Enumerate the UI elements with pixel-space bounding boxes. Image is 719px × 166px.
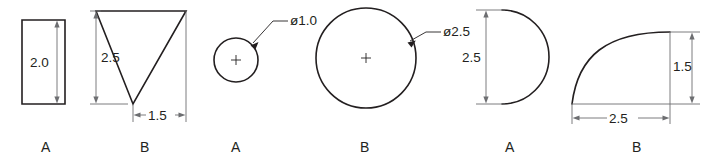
technical-drawing-canvas: 2.0 2.5 1.5: [0, 0, 719, 166]
figure-label-6: B: [632, 139, 641, 155]
figure-5-semicircle-group: 2.5: [462, 10, 549, 104]
arc-width-dimension: 2.5: [573, 111, 670, 126]
semicircle-outline: [502, 10, 549, 104]
figure-1-rectangle-group: 2.0: [22, 20, 65, 104]
figure-4-large-circle-group: ø2.5: [316, 8, 470, 108]
arc-height-value: 1.5: [673, 59, 692, 74]
large-circle-center-mark: [361, 53, 371, 63]
quarter-arc-outline: [572, 32, 670, 104]
semicircle-height-value: 2.5: [462, 50, 481, 65]
figure-3-small-circle-group: ø1.0: [214, 13, 317, 82]
large-circle-diameter-leader: [408, 32, 442, 48]
small-circle-diameter-value: ø1.0: [290, 13, 317, 28]
figure-label-1: A: [41, 139, 51, 155]
arc-width-value: 2.5: [609, 111, 628, 126]
triangle-height-dimension: 2.5: [93, 12, 119, 104]
figure-labels-row: A B A B A B: [41, 139, 641, 155]
triangle-base-dimension: 1.5: [134, 108, 186, 123]
figure-6-quarter-arc-group: 1.5 2.5: [572, 32, 700, 126]
small-circle-diameter-leader: [251, 21, 289, 50]
rectangle-height-value: 2.0: [30, 55, 49, 70]
arc-height-dimension: 1.5: [673, 33, 695, 104]
figure-label-4: B: [360, 139, 369, 155]
figure-label-2: B: [140, 139, 149, 155]
figure-label-5: A: [505, 139, 515, 155]
triangle-base-value: 1.5: [148, 108, 167, 123]
large-circle-diameter-value: ø2.5: [443, 24, 470, 39]
small-circle-center-mark: [231, 55, 241, 65]
figure-2-triangle-group: 2.5 1.5: [90, 11, 186, 123]
figure-label-3: A: [231, 139, 241, 155]
triangle-height-value: 2.5: [101, 50, 120, 65]
rectangle-height-dimension: 2.0: [30, 21, 60, 104]
